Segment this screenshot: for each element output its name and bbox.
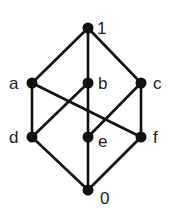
edge-f-0 <box>88 137 141 190</box>
node-1 <box>83 23 94 34</box>
node-d <box>27 132 38 143</box>
edge-a-f <box>32 83 141 137</box>
node-label-c: c <box>153 74 162 93</box>
node-label-d: d <box>9 128 18 147</box>
node-0 <box>83 185 94 196</box>
node-e <box>83 132 94 143</box>
node-label-e: e <box>98 132 107 151</box>
node-label-1: 1 <box>97 19 106 38</box>
edge-d-0 <box>32 137 88 190</box>
hasse-diagram: 1abcdef0 <box>0 0 172 209</box>
node-b <box>83 78 94 89</box>
node-label-0: 0 <box>100 189 109 208</box>
node-label-f: f <box>153 128 158 147</box>
node-a <box>27 78 38 89</box>
node-f <box>136 132 147 143</box>
edge-1-a <box>32 28 88 83</box>
edge-c-e <box>88 83 141 137</box>
edges-layer <box>32 28 141 190</box>
edge-1-c <box>88 28 141 83</box>
node-label-a: a <box>9 74 19 93</box>
node-c <box>136 78 147 89</box>
edge-b-d <box>32 83 88 137</box>
node-label-b: b <box>98 74 107 93</box>
